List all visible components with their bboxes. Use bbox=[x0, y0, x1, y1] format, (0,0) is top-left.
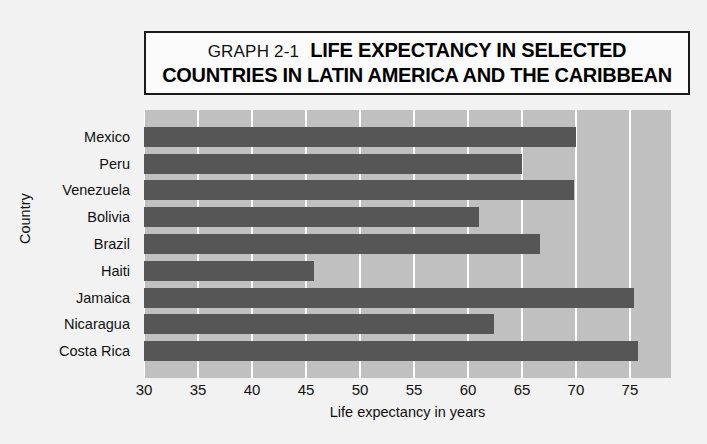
x-axis-title: Life expectancy in years bbox=[144, 404, 671, 420]
x-tick-label-40: 40 bbox=[244, 381, 261, 398]
y-tick-label-bolivia: Bolivia bbox=[87, 209, 130, 225]
bar-row bbox=[144, 127, 671, 147]
bar-mexico bbox=[144, 127, 576, 147]
y-tick-label-haiti: Haiti bbox=[101, 263, 130, 279]
bar-costa-rica bbox=[144, 341, 638, 361]
x-tick-label-65: 65 bbox=[514, 381, 531, 398]
y-tick-label-brazil: Brazil bbox=[94, 236, 130, 252]
x-tick-label-75: 75 bbox=[622, 381, 639, 398]
y-tick-label-nicaragua: Nicaragua bbox=[64, 316, 130, 332]
bar-row bbox=[144, 288, 671, 308]
x-tick-label-55: 55 bbox=[406, 381, 423, 398]
bar-row bbox=[144, 234, 671, 254]
y-tick-label-venezuela: Venezuela bbox=[62, 182, 130, 198]
y-axis-title: Country bbox=[17, 193, 33, 244]
bar-nicaragua bbox=[144, 314, 494, 334]
graph-number-label: GRAPH 2-1 bbox=[208, 42, 300, 62]
y-tick-label-peru: Peru bbox=[99, 156, 130, 172]
x-axis-tick-labels: 30354045505560657075 bbox=[144, 381, 671, 403]
bars-layer bbox=[144, 110, 671, 378]
x-tick-label-35: 35 bbox=[190, 381, 207, 398]
x-tick-label-50: 50 bbox=[352, 381, 369, 398]
chart-title-line-2: COUNTRIES IN LATIN AMERICA AND THE CARIB… bbox=[162, 64, 672, 87]
chart-title-main: LIFE EXPECTANCY IN SELECTED bbox=[310, 39, 626, 62]
bar-bolivia bbox=[144, 207, 479, 227]
chart-title-box: GRAPH 2-1 LIFE EXPECTANCY IN SELECTED CO… bbox=[144, 31, 690, 95]
bar-venezuela bbox=[144, 180, 574, 200]
bar-row bbox=[144, 154, 671, 174]
x-tick-label-45: 45 bbox=[298, 381, 315, 398]
y-tick-label-costa-rica: Costa Rica bbox=[59, 343, 130, 359]
x-tick-label-60: 60 bbox=[460, 381, 477, 398]
bar-haiti bbox=[144, 261, 314, 281]
x-tick-label-70: 70 bbox=[568, 381, 585, 398]
y-tick-label-mexico: Mexico bbox=[84, 129, 130, 145]
chart-figure: GRAPH 2-1 LIFE EXPECTANCY IN SELECTED CO… bbox=[0, 0, 707, 444]
bar-row bbox=[144, 180, 671, 200]
bar-row bbox=[144, 314, 671, 334]
plot-area bbox=[144, 110, 671, 378]
x-tick-label-30: 30 bbox=[136, 381, 153, 398]
bar-peru bbox=[144, 154, 522, 174]
y-axis-tick-labels: MexicoPeruVenezuelaBoliviaBrazilHaitiJam… bbox=[0, 110, 138, 378]
bar-brazil bbox=[144, 234, 540, 254]
bar-row bbox=[144, 341, 671, 361]
bar-row bbox=[144, 207, 671, 227]
y-tick-label-jamaica: Jamaica bbox=[76, 290, 130, 306]
chart-title-line-1: GRAPH 2-1 LIFE EXPECTANCY IN SELECTED bbox=[208, 39, 627, 62]
bar-jamaica bbox=[144, 288, 634, 308]
bar-row bbox=[144, 261, 671, 281]
